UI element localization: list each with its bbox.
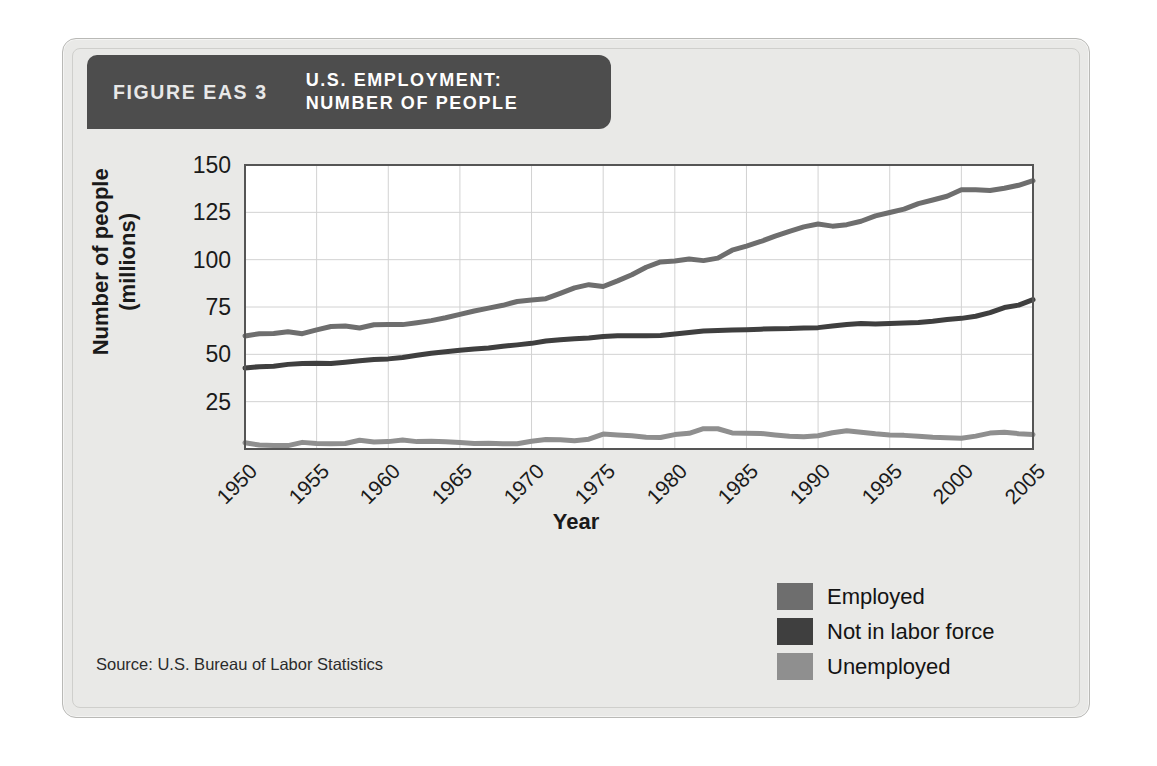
legend-item-not-in-labor-force: Not in labor force [777, 614, 995, 649]
legend-swatch-employed [777, 583, 813, 610]
figure-screenshot: FIGURE EAS 3 U.S. EMPLOYMENT: NUMBER OF … [0, 0, 1157, 766]
legend-swatch-unemployed [777, 653, 813, 680]
figure-card: FIGURE EAS 3 U.S. EMPLOYMENT: NUMBER OF … [62, 38, 1090, 718]
legend-label-unemployed: Unemployed [827, 654, 951, 680]
legend-item-unemployed: Unemployed [777, 649, 995, 684]
figure-title: U.S. EMPLOYMENT: NUMBER OF PEOPLE [306, 69, 519, 115]
chart-legend: Employed Not in labor force Unemployed [777, 579, 995, 684]
legend-swatch-not-in-labor-force [777, 618, 813, 645]
legend-label-not-in-labor-force: Not in labor force [827, 619, 995, 645]
legend-item-employed: Employed [777, 579, 995, 614]
legend-label-employed: Employed [827, 584, 925, 610]
source-note: Source: U.S. Bureau of Labor Statistics [96, 655, 383, 674]
figure-header-band: FIGURE EAS 3 U.S. EMPLOYMENT: NUMBER OF … [87, 55, 611, 129]
figure-number-label: FIGURE EAS 3 [113, 81, 268, 104]
